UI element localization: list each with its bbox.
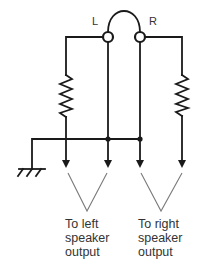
ground-bus [32, 139, 140, 169]
left-output-caption-line3: output [65, 245, 100, 259]
terminal-right-label: R [149, 15, 157, 27]
left-output-caption-line1: To left [65, 217, 99, 231]
arrow-down-icon [136, 160, 144, 168]
terminal-left-label: L [92, 15, 98, 27]
arrow-down-icon [178, 160, 186, 168]
left-output-bracket [68, 173, 107, 211]
terminal-left [103, 32, 113, 42]
ground-icon [18, 169, 45, 176]
wiring-diagram: L R To left speaker output To right spea… [0, 0, 197, 271]
left-resistor [60, 75, 72, 117]
left-output-caption-line2: speaker [65, 231, 109, 245]
jumper-arc [108, 11, 140, 32]
right-output-caption-line1: To right [138, 217, 180, 231]
junction-dot-right [137, 136, 142, 141]
right-output-caption-line2: speaker [138, 231, 182, 245]
right-top-wire [145, 37, 182, 75]
junction-dot-left [105, 136, 110, 141]
terminal-right [135, 32, 145, 42]
right-resistor [176, 75, 188, 116]
arrow-down-icon [104, 160, 112, 168]
left-top-wire [66, 37, 103, 75]
right-output-caption-line3: output [138, 245, 173, 259]
right-output-bracket [141, 173, 182, 211]
arrow-down-icon [62, 160, 70, 168]
